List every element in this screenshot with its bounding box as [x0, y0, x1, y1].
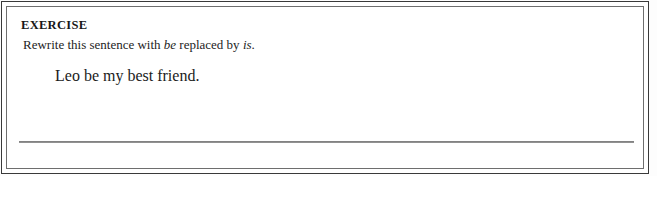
instruction-italic-word-be: be [164, 37, 176, 52]
exercise-content: EXERCISE Rewrite this sentence with be r… [7, 7, 643, 168]
instruction-prefix: Rewrite this sentence with [23, 37, 164, 52]
answer-rule[interactable] [19, 141, 634, 143]
instruction-italic-word-is: is [243, 37, 252, 52]
instruction-middle: replaced by [176, 37, 243, 52]
exercise-heading: EXERCISE [21, 18, 629, 33]
instruction-suffix: . [252, 37, 255, 52]
example-sentence: Leo be my best friend. [55, 65, 629, 87]
instruction-text: Rewrite this sentence with be replaced b… [23, 36, 629, 55]
page-margin-below-box [0, 176, 657, 204]
exercise-box-inner-border: EXERCISE Rewrite this sentence with be r… [6, 6, 644, 169]
scanned-page: EXERCISE Rewrite this sentence with be r… [0, 0, 657, 204]
exercise-box: EXERCISE Rewrite this sentence with be r… [1, 1, 649, 174]
